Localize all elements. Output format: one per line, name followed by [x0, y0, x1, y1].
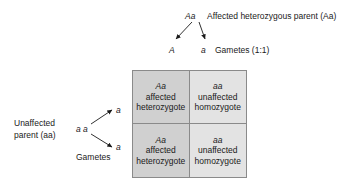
top-gametes-label: Gametes (1:1)	[215, 45, 269, 56]
cell-genotype: aa	[213, 135, 222, 146]
top-parent-genotype: Aa	[185, 11, 195, 22]
punnett-cell: Aa affected heterozygote	[133, 71, 190, 124]
cell-line2: heterozygote	[136, 102, 185, 113]
left-gamete-top: a	[116, 105, 121, 116]
arrow-left-upper	[91, 110, 112, 124]
punnett-cell: Aa affected heterozygote	[133, 124, 190, 177]
left-parent-genotype: a a	[76, 124, 88, 135]
cell-line1: affected	[146, 145, 176, 156]
top-gamete-allele-A: A	[169, 45, 175, 56]
left-gamete-bottom: a	[116, 142, 121, 153]
cell-line1: affected	[146, 92, 176, 103]
cell-line1: unaffected	[198, 145, 238, 156]
top-parent-description: Affected heterozygous parent (Aa)	[207, 11, 336, 22]
cell-line2: homozygote	[195, 102, 241, 113]
cell-line2: heterozygote	[136, 156, 185, 167]
arrow-top-left	[176, 22, 192, 39]
left-parent-line1: Unaffected	[14, 118, 55, 129]
punnett-cell: aa unaffected homozygote	[190, 124, 247, 177]
top-gamete-allele-a: a	[201, 45, 206, 56]
cell-genotype: Aa	[156, 135, 166, 146]
cell-genotype: Aa	[156, 81, 166, 92]
arrow-left-lower	[91, 134, 112, 147]
cell-line2: homozygote	[195, 156, 241, 167]
cell-line1: unaffected	[198, 92, 238, 103]
punnett-square-diagram: Aa Affected heterozygous parent (Aa) A a…	[0, 0, 361, 189]
left-parent-line2: parent (aa)	[14, 130, 56, 141]
left-gametes-label: Gametes	[76, 152, 111, 163]
punnett-cell: aa unaffected homozygote	[190, 71, 247, 124]
punnett-grid: Aa affected heterozygote aa unaffected h…	[132, 70, 247, 178]
arrow-top-right	[199, 22, 205, 39]
cell-genotype: aa	[213, 81, 222, 92]
